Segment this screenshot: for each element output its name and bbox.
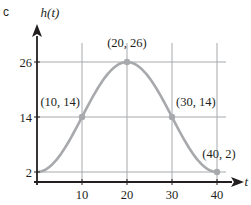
y-axis-arrow-icon xyxy=(32,24,42,37)
data-point-marker xyxy=(214,169,220,175)
point-label: (20, 26) xyxy=(107,36,147,50)
x-tick-label: 40 xyxy=(211,188,224,202)
x-tick-label: 10 xyxy=(76,188,89,202)
x-tick-label: 20 xyxy=(121,188,134,202)
point-label: (10, 14) xyxy=(40,95,80,109)
y-tick-label: 26 xyxy=(20,56,33,70)
point-label: (30, 14) xyxy=(176,95,216,109)
x-tick-label: 30 xyxy=(166,188,179,202)
x-axis-arrow-icon xyxy=(231,177,244,187)
x-axis-label: t xyxy=(244,174,248,189)
chart: 1020304021426(10, 14)(20, 26)(30, 14)(40… xyxy=(0,0,251,205)
data-point-marker xyxy=(124,59,130,65)
y-tick-label: 2 xyxy=(26,166,32,180)
point-label: (40, 2) xyxy=(202,147,235,161)
y-tick-label: 14 xyxy=(20,111,33,125)
data-point-marker xyxy=(79,114,85,120)
panel-label: c xyxy=(3,5,9,19)
chart-svg: 1020304021426(10, 14)(20, 26)(30, 14)(40… xyxy=(0,0,251,205)
data-point-marker xyxy=(169,114,175,120)
y-axis-label: h(t) xyxy=(41,5,60,20)
